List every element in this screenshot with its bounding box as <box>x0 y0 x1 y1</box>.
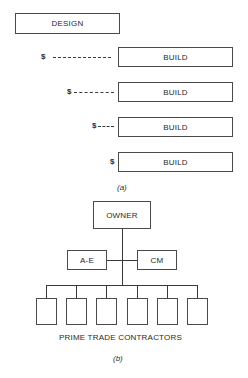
cm-label: CM <box>151 256 164 265</box>
contractors-bus-line <box>46 285 198 286</box>
build-label-4: BUILD <box>163 158 188 167</box>
cm-box: CM <box>137 250 177 270</box>
ae-label: A-E <box>80 256 94 265</box>
dashed-line-3 <box>98 126 114 127</box>
contractor-drop-5 <box>167 285 168 298</box>
owner-trunk-line <box>122 229 123 286</box>
dollar-sign-1: $ <box>41 52 45 62</box>
contractor-box-3 <box>96 298 117 325</box>
contractor-drop-2 <box>76 285 77 298</box>
build-box-4: BUILD <box>118 152 233 172</box>
dollar-sign-4: $ <box>110 157 114 167</box>
contractor-drop-1 <box>46 285 47 298</box>
build-box-2: BUILD <box>118 82 233 102</box>
build-label-3: BUILD <box>163 123 188 132</box>
contractor-drop-3 <box>106 285 107 298</box>
caption-b: (b) <box>113 354 123 363</box>
contractor-box-1 <box>36 298 57 325</box>
ae-cm-connector <box>107 260 137 261</box>
design-label: DESIGN <box>52 19 84 28</box>
contractor-drop-6 <box>197 285 198 298</box>
contractor-box-6 <box>187 298 208 325</box>
dashed-line-1 <box>53 57 111 58</box>
dollar-sign-2: $ <box>67 87 71 97</box>
ae-box: A-E <box>67 250 107 270</box>
contractor-drop-4 <box>137 285 138 298</box>
dashed-line-2 <box>74 92 114 93</box>
owner-label: OWNER <box>106 211 138 220</box>
build-label-1: BUILD <box>163 53 188 62</box>
build-box-3: BUILD <box>118 117 233 137</box>
contractor-box-5 <box>157 298 178 325</box>
owner-box: OWNER <box>93 201 151 229</box>
build-box-1: BUILD <box>118 47 233 67</box>
contractor-box-2 <box>66 298 87 325</box>
dollar-sign-3: $ <box>92 121 96 131</box>
build-label-2: BUILD <box>163 88 188 97</box>
design-box: DESIGN <box>15 13 120 34</box>
caption-a: (a) <box>117 183 127 192</box>
contractors-label: PRIME TRADE CONTRACTORS <box>59 333 182 342</box>
contractor-box-4 <box>127 298 148 325</box>
